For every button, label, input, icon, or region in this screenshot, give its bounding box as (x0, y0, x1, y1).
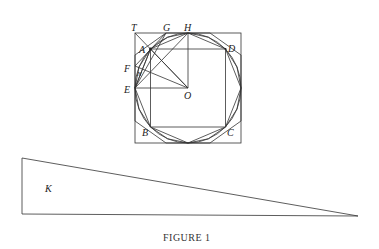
label-E: E (123, 84, 130, 95)
label-O: O (184, 90, 191, 101)
point-D (225, 48, 227, 50)
line-FO (135, 66, 188, 88)
label-N: N (136, 70, 142, 78)
label-C: C (227, 127, 234, 138)
label-B: B (142, 127, 148, 138)
triangle-K (22, 158, 358, 216)
figure-caption: FIGURE 1 (163, 232, 211, 243)
label-K: K (44, 183, 53, 194)
point-A (149, 48, 152, 51)
figure-1: T G H A D F N E O B C K FIGURE 1 (0, 0, 379, 249)
label-A: A (138, 44, 146, 55)
label-F: F (123, 63, 131, 74)
label-H: H (183, 22, 192, 33)
line-AO (151, 49, 189, 88)
label-G: G (163, 22, 170, 33)
label-D: D (227, 43, 236, 54)
label-T: T (131, 22, 138, 33)
